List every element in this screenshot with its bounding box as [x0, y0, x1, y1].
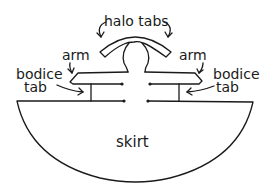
label-skirt: skirt: [116, 133, 149, 151]
neck-loop: [123, 43, 149, 72]
label-arm-left: arm: [62, 47, 90, 63]
pattern-diagram: halo tabs arm arm bodice tab bodice tab …: [0, 0, 273, 195]
right-arm-dot: [148, 82, 151, 85]
bodice-tabs: [91, 84, 179, 101]
label-halo-tabs: halo tabs: [104, 13, 169, 29]
label-tab-right: tab: [216, 79, 239, 95]
arrow-bodice-right: [187, 86, 214, 92]
label-arm-right: arm: [179, 47, 207, 63]
label-tab-left: tab: [24, 79, 47, 95]
arm-bodice-piece: [70, 72, 202, 86]
right-skirt-dot: [146, 99, 149, 102]
halo-band: [100, 37, 171, 57]
left-skirt-dot: [122, 99, 125, 102]
left-arm-dot: [120, 82, 123, 85]
